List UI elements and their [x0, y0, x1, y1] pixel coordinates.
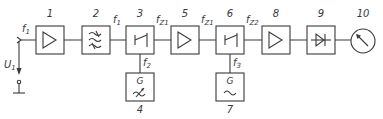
- signal-label-mixer2-out: fZ2: [246, 14, 259, 27]
- block-10-number: 10: [357, 8, 370, 19]
- generator-glyph: G: [227, 76, 234, 86]
- input-signal-label: f1: [22, 23, 30, 36]
- block-8-amplifier: [262, 26, 290, 54]
- block-4-number: 4: [137, 104, 143, 115]
- block-7-fixed-generator: G: [216, 73, 244, 101]
- input-voltage-label: U1: [4, 59, 16, 72]
- block-6-mixer: [216, 26, 244, 54]
- signal-label-mixer1-out: fZ1: [156, 14, 169, 27]
- signal-label-amp5-out: fZ1: [201, 14, 214, 27]
- block-9-number: 9: [318, 8, 324, 19]
- block-1-number: 1: [47, 8, 53, 19]
- block-6-number: 6: [227, 8, 233, 19]
- block-2-filter: [82, 26, 110, 54]
- voltage-arrow-head-icon: [17, 68, 22, 75]
- block-4-tunable-generator: G: [126, 73, 154, 101]
- signal-label-gen4-out: f2: [143, 57, 152, 70]
- block-3-mixer: [126, 26, 154, 54]
- block-3-number: 3: [137, 8, 143, 19]
- block-5-number: 5: [182, 8, 188, 19]
- block-5-amplifier: [171, 26, 199, 54]
- generator-glyph: G: [137, 76, 144, 86]
- block-diagram: f1 U1 1 2 f1 3 fZ1 f2 G: [0, 0, 383, 119]
- block-7-number: 7: [227, 104, 234, 115]
- signal-label-gen7-out: f3: [233, 57, 241, 70]
- block-2-number: 2: [93, 8, 99, 19]
- ground-terminal-icon: [17, 80, 20, 83]
- block-9-detector: [307, 26, 335, 54]
- signal-label-after-filter: f1: [113, 14, 121, 27]
- block-10-meter: [351, 29, 375, 53]
- block-8-number: 8: [273, 8, 279, 19]
- block-1-amplifier: [36, 26, 64, 54]
